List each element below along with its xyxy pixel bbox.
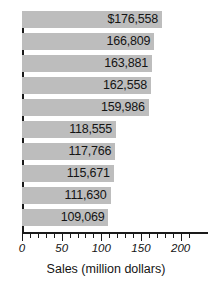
bar-value-label: 159,986 bbox=[22, 99, 149, 116]
bar-value-label: 118,555 bbox=[22, 121, 116, 138]
x-axis-minor-tick bbox=[85, 234, 86, 238]
x-axis-minor-tick bbox=[157, 234, 158, 238]
x-axis-major-tick bbox=[181, 234, 182, 241]
bar-row: 111,630 bbox=[22, 187, 111, 204]
x-axis-tick-label: 50 bbox=[55, 242, 68, 254]
x-axis-minor-tick bbox=[165, 234, 166, 238]
x-axis-tick-label: 150 bbox=[131, 242, 150, 254]
bar-value-label: 111,630 bbox=[22, 187, 111, 204]
bar-chart: $176,558166,809163,881162,558159,986118,… bbox=[0, 0, 212, 287]
x-axis-minor-tick bbox=[93, 234, 94, 238]
bar-row: 115,671 bbox=[22, 165, 114, 182]
x-axis-minor-tick bbox=[189, 234, 190, 238]
bar-row: 117,766 bbox=[22, 143, 115, 160]
bar-row: 162,558 bbox=[22, 77, 151, 94]
x-axis-minor-tick bbox=[117, 234, 118, 238]
x-axis-minor-tick bbox=[149, 234, 150, 238]
x-axis-major-tick bbox=[62, 234, 63, 241]
bar-row: 109,069 bbox=[22, 209, 108, 226]
bar-row: 159,986 bbox=[22, 99, 149, 116]
x-axis-tick-label: 0 bbox=[19, 242, 25, 254]
x-axis-minor-tick bbox=[70, 234, 71, 238]
x-axis-minor-tick bbox=[109, 234, 110, 238]
x-axis-major-tick bbox=[141, 234, 142, 241]
x-axis-minor-tick bbox=[133, 234, 134, 238]
bar-row: 163,881 bbox=[22, 55, 152, 72]
bar-value-label: 166,809 bbox=[22, 33, 154, 50]
x-axis-tick-label: 200 bbox=[171, 242, 190, 254]
bar-value-label: 163,881 bbox=[22, 55, 152, 72]
x-axis-title: Sales (million dollars) bbox=[0, 262, 212, 276]
bar-row: 118,555 bbox=[22, 121, 116, 138]
bar-value-label: 115,671 bbox=[22, 165, 114, 182]
x-axis-minor-tick bbox=[173, 234, 174, 238]
bar-value-label: 117,766 bbox=[22, 143, 115, 160]
bar-value-label: 162,558 bbox=[22, 77, 151, 94]
x-axis-minor-tick bbox=[78, 234, 79, 238]
x-axis-major-tick bbox=[101, 234, 102, 241]
x-axis-minor-tick bbox=[125, 234, 126, 238]
bar-value-label: 109,069 bbox=[22, 209, 108, 226]
bar-value-label: $176,558 bbox=[22, 11, 162, 28]
x-axis-minor-tick bbox=[30, 234, 31, 238]
x-axis-minor-tick bbox=[38, 234, 39, 238]
bar-row: 166,809 bbox=[22, 33, 154, 50]
bar-row: $176,558 bbox=[22, 11, 162, 28]
x-axis-minor-tick bbox=[54, 234, 55, 238]
x-axis-tick-label: 100 bbox=[92, 242, 111, 254]
x-axis-major-tick bbox=[22, 234, 23, 241]
x-axis-minor-tick bbox=[46, 234, 47, 238]
